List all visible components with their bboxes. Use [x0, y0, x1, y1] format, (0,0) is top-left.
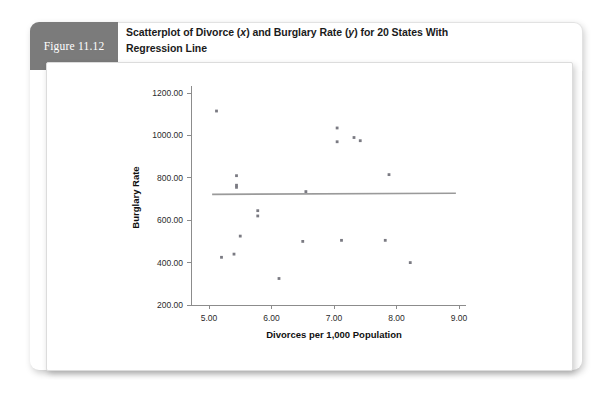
- data-point: [384, 239, 387, 242]
- y-axis-title: Burglary Rate: [130, 166, 141, 228]
- x-axis-tick-label: 8.00: [388, 313, 405, 323]
- data-point: [215, 110, 218, 113]
- data-point: [340, 239, 343, 242]
- data-point: [220, 256, 223, 259]
- data-point: [278, 277, 281, 280]
- caption-text-a: Scatterplot of Divorce (: [126, 26, 240, 38]
- y-axis-tick-label: 1000.00: [152, 130, 183, 140]
- regression-line: [212, 193, 456, 194]
- data-point: [256, 215, 259, 218]
- figure-caption: Scatterplot of Divorce (x) and Burglary …: [126, 24, 566, 57]
- scatterplot-chart: 200.00400.00600.00800.001000.001200.005.…: [46, 62, 571, 369]
- y-axis-tick-label: 800.00: [157, 173, 183, 183]
- x-axis-tick-label: 7.00: [326, 313, 343, 323]
- y-axis-tick-label: 600.00: [157, 215, 183, 225]
- x-axis-tick-label: 5.00: [201, 313, 218, 323]
- data-point: [353, 136, 356, 139]
- figure-number-label: Figure 11.12: [44, 40, 105, 52]
- data-point: [233, 253, 236, 256]
- figure-root: Figure 11.12 Scatterplot of Divorce (x) …: [0, 0, 608, 397]
- data-point: [235, 174, 238, 177]
- y-axis-tick-label: 200.00: [157, 300, 183, 310]
- data-point: [409, 261, 412, 264]
- data-point: [336, 140, 339, 143]
- data-point: [235, 186, 238, 189]
- y-axis-tick-label: 400.00: [157, 258, 183, 268]
- data-point: [256, 209, 259, 212]
- y-axis-tick-label: 1200.00: [152, 88, 183, 98]
- data-point: [336, 127, 339, 130]
- data-point: [359, 139, 362, 142]
- data-point: [239, 235, 242, 238]
- data-point: [301, 240, 304, 243]
- caption-text-b: ) and Burglary Rate (: [246, 26, 348, 38]
- x-axis-title: Divorces per 1,000 Population: [266, 329, 402, 340]
- x-axis-tick-label: 9.00: [451, 313, 468, 323]
- figure-caption-line1: Scatterplot of Divorce (x) and Burglary …: [126, 26, 448, 38]
- figure-caption-line2: Regression Line: [126, 42, 207, 54]
- data-point: [388, 173, 391, 176]
- caption-text-c: ) for 20 States With: [354, 26, 448, 38]
- x-axis-tick-label: 6.00: [263, 313, 280, 323]
- data-point: [304, 190, 307, 193]
